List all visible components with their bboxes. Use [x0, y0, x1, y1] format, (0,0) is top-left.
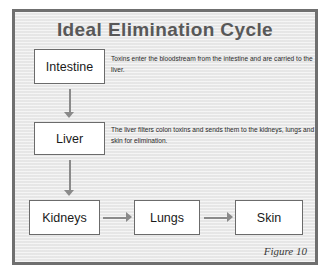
node-lungs-label: Lungs	[150, 211, 184, 225]
arrow-right-icon-lungs-to-skin	[204, 212, 233, 223]
figure-caption: Figure 10	[264, 245, 307, 257]
figure-frame: Ideal Elimination Cycle Intestine Liver …	[12, 9, 318, 265]
arrow-shaft	[69, 160, 71, 191]
arrow-head	[64, 112, 74, 118]
node-kidneys: Kidneys	[29, 200, 100, 235]
arrow-right-icon-kidneys-to-lungs	[103, 212, 132, 223]
annotation-intestine: Toxins enter the bloodstream from the in…	[111, 54, 316, 75]
arrow-shaft	[69, 89, 71, 113]
arrow-down-icon-intestine-to-liver	[64, 89, 75, 118]
arrow-down-icon-liver-to-kidneys	[64, 160, 75, 196]
arrow-head	[227, 212, 233, 222]
page-title: Ideal Elimination Cycle	[15, 19, 315, 41]
arrow-head	[64, 190, 74, 196]
node-skin-label: Skin	[257, 211, 281, 225]
annotation-liver: The liver filters colon toxins and sends…	[111, 125, 321, 146]
node-intestine: Intestine	[34, 49, 105, 84]
node-lungs: Lungs	[134, 200, 200, 235]
node-liver: Liver	[34, 122, 105, 155]
arrow-shaft	[103, 217, 127, 219]
node-intestine-label: Intestine	[46, 60, 93, 74]
node-liver-label: Liver	[56, 132, 83, 146]
node-kidneys-label: Kidneys	[42, 211, 86, 225]
node-skin: Skin	[235, 200, 303, 235]
arrow-shaft	[204, 217, 228, 219]
arrow-head	[126, 212, 132, 222]
